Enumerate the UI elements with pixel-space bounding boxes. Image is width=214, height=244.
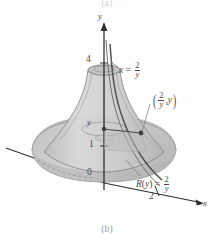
inner-y-marker-label: y: [87, 118, 91, 127]
point-coordinate-label: ( 2 y ,y): [152, 92, 177, 110]
curve-equation-denominator: y: [135, 70, 141, 79]
y-tick-label-4: 4: [86, 55, 91, 65]
right-paren: ): [173, 95, 176, 107]
curve-equation-numerator: 2: [134, 62, 140, 70]
y-tick-label-1: 1: [89, 140, 94, 150]
point-numerator: 2: [158, 92, 164, 100]
radius-denominator: y: [164, 184, 170, 193]
radius-function-label: R(y) = 2 y: [136, 176, 171, 194]
curve-equation-lhs: x: [119, 65, 123, 75]
figure-caption-below: (b): [0, 224, 214, 234]
x-axis-label: x: [203, 199, 207, 208]
curve-equation-fraction: 2 y: [134, 62, 140, 80]
left-paren: (: [153, 95, 156, 107]
solid-of-revolution-figure: [0, 0, 214, 244]
radius-close-paren: ): [149, 179, 152, 189]
radius-numerator: 2: [163, 176, 169, 184]
curve-equation-equals: =: [126, 65, 131, 75]
radius-fraction: 2 y: [163, 176, 169, 194]
point-denominator: y: [158, 100, 164, 109]
point-fraction: 2 y: [158, 92, 164, 110]
y-axis-label: y: [98, 12, 102, 21]
radius-equals: =: [155, 179, 160, 189]
point-second-coord: y: [168, 95, 172, 105]
origin-label: 0: [87, 168, 92, 178]
curve-equation-label: x = 2 y: [119, 62, 142, 80]
